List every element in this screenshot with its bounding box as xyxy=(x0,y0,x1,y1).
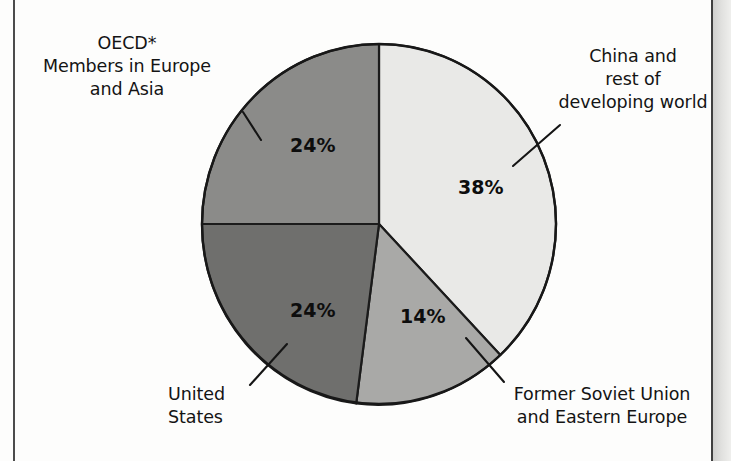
slice-label-china: China and rest of developing world xyxy=(548,45,718,113)
slice-value-oecd-members: 24% xyxy=(290,134,335,156)
slice-value-china: 38% xyxy=(458,176,503,198)
slice-label-oecd-members: OECD* Members in Europe and Asia xyxy=(18,32,236,100)
slice-value-former-soviet-union: 14% xyxy=(400,305,445,327)
slice-label-united-states: United States xyxy=(168,383,288,429)
pie-chart-figure: OECD* Members in Europe and Asia China a… xyxy=(0,0,731,461)
page-edge-shadow xyxy=(713,0,731,461)
slice-value-united-states: 24% xyxy=(290,299,335,321)
slice-label-former-soviet-union: Former Soviet Union and Eastern Europe xyxy=(492,383,712,429)
